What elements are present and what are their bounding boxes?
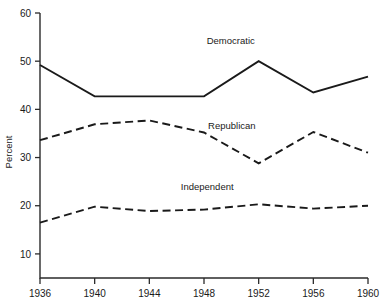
series-line-independent xyxy=(40,204,368,222)
y-tick-label: 50 xyxy=(20,56,32,67)
series-line-democratic xyxy=(40,61,368,96)
x-axis-ticks: 1936194019441948195219561960 xyxy=(29,278,380,299)
y-tick-label: 60 xyxy=(20,8,32,19)
x-tick-label: 1944 xyxy=(138,288,161,299)
series-line-republican xyxy=(40,120,368,163)
line-chart-plot: 102030405060 193619401944194819521956196… xyxy=(0,0,388,306)
series-label-republican: Republican xyxy=(208,120,256,131)
y-tick-label: 10 xyxy=(20,249,32,260)
series-labels: DemocraticRepublicanIndependent xyxy=(181,35,256,192)
series-label-independent: Independent xyxy=(181,181,234,192)
series-label-democratic: Democratic xyxy=(207,35,255,46)
y-axis-ticks: 102030405060 xyxy=(20,8,40,260)
x-tick-label: 1960 xyxy=(357,288,380,299)
data-series xyxy=(40,61,368,222)
y-tick-label: 20 xyxy=(20,200,32,211)
axes xyxy=(40,13,368,278)
y-tick-label: 40 xyxy=(20,104,32,115)
y-axis-title: Percent xyxy=(3,135,14,168)
x-tick-label: 1940 xyxy=(84,288,107,299)
x-tick-label: 1956 xyxy=(302,288,325,299)
y-tick-label: 30 xyxy=(20,152,32,163)
x-tick-label: 1952 xyxy=(248,288,271,299)
x-tick-label: 1936 xyxy=(29,288,52,299)
x-tick-label: 1948 xyxy=(193,288,216,299)
chart-container: 102030405060 193619401944194819521956196… xyxy=(0,0,388,306)
axis-spines xyxy=(40,13,368,278)
